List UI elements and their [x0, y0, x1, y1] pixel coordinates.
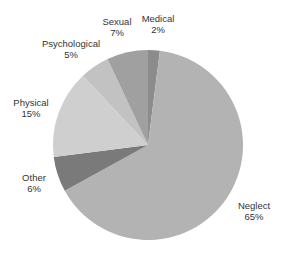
- label-physical-name: Physical: [13, 97, 48, 108]
- label-psychological: Psychological 5%: [42, 38, 100, 60]
- label-medical-name: Medical: [142, 13, 175, 24]
- label-psychological-pct: 5%: [42, 49, 100, 60]
- label-other-pct: 6%: [22, 183, 46, 194]
- label-sexual-pct: 7%: [102, 27, 131, 38]
- label-sexual-name: Sexual: [102, 16, 131, 27]
- label-sexual: Sexual 7%: [102, 16, 131, 38]
- label-medical-pct: 2%: [142, 24, 175, 35]
- label-neglect: Neglect 65%: [238, 200, 270, 222]
- label-physical-pct: 15%: [13, 108, 48, 119]
- label-neglect-pct: 65%: [238, 211, 270, 222]
- label-neglect-name: Neglect: [238, 200, 270, 211]
- label-psychological-name: Psychological: [42, 38, 100, 49]
- label-other-name: Other: [22, 172, 46, 183]
- label-medical: Medical 2%: [142, 13, 175, 35]
- label-physical: Physical 15%: [13, 97, 48, 119]
- label-other: Other 6%: [22, 172, 46, 194]
